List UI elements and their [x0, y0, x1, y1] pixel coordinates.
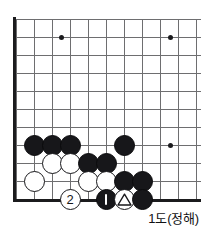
board-gridline-h-2 — [16, 55, 201, 56]
go-board[interactable]: 2 — [0, 0, 201, 210]
board-edge-left — [13, 17, 16, 202]
white-stone[interactable] — [60, 189, 81, 210]
board-gridline-h-0 — [16, 19, 201, 20]
white-stone[interactable] — [24, 171, 45, 192]
star-point-upper-right — [168, 35, 173, 40]
board-gridline-v-8 — [160, 19, 161, 199]
black-stone[interactable] — [132, 189, 153, 210]
diagram-caption: 1도(정해) — [148, 208, 199, 227]
board-gridline-h-5 — [16, 109, 201, 110]
board-gridline-v-10 — [196, 19, 197, 199]
star-point-upper-left — [59, 35, 64, 40]
board-gridline-h-1 — [16, 37, 201, 38]
black-stone[interactable] — [114, 135, 135, 156]
board-gridline-v-9 — [178, 19, 179, 199]
board-gridline-h-6 — [16, 127, 201, 128]
board-gridline-h-4 — [16, 91, 201, 92]
star-point-lower-right — [168, 143, 173, 148]
go-problem-diagram: 2 1도(정해) — [0, 0, 201, 228]
board-gridline-h-3 — [16, 73, 201, 74]
board-gridline-v-0 — [16, 19, 17, 199]
